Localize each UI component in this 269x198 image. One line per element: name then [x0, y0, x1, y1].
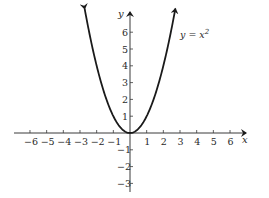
x-axis-label: x [242, 134, 248, 145]
x-tick-label: 3 [178, 136, 184, 147]
x-tick-label: 1 [144, 136, 150, 147]
y-tick-label: 2 [122, 94, 128, 105]
x-tick-label: 6 [228, 136, 234, 147]
x-tick-label: −4 [57, 136, 71, 147]
y-ticks: 654321−1−2−3 [117, 27, 133, 189]
y-tick-label: −1 [117, 144, 131, 155]
y-tick-label: 6 [122, 27, 128, 38]
y-tick-label: 5 [122, 44, 128, 55]
x-tick-label: −5 [41, 136, 55, 147]
parabola-graph: −6−5−4−3−2−1123456 654321−1−2−3 x y y = … [0, 0, 269, 198]
y-tick-label: 1 [122, 111, 128, 122]
y-tick-label: 4 [122, 60, 128, 71]
x-tick-label: −3 [74, 136, 88, 147]
x-tick-label: 2 [161, 136, 167, 147]
x-tick-label: −2 [91, 136, 105, 147]
y-axis-label: y [117, 8, 124, 19]
x-tick-label: 4 [194, 136, 200, 147]
y-tick-label: −2 [117, 161, 131, 172]
curve-label: y = x2 [179, 28, 210, 40]
x-tick-label: 5 [211, 136, 217, 147]
y-tick-label: −3 [117, 178, 131, 189]
y-tick-label: 3 [122, 77, 128, 88]
x-tick-label: −6 [24, 136, 38, 147]
